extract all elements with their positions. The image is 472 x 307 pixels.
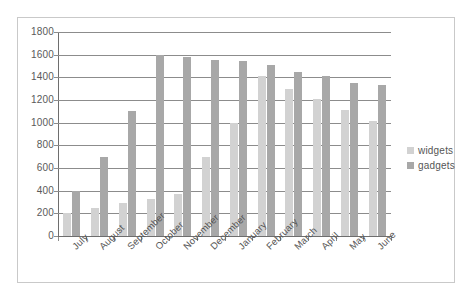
bar-group xyxy=(308,32,336,236)
bar-gadgets[interactable] xyxy=(378,85,386,236)
y-tick-label: 1800 xyxy=(31,27,54,37)
bar-widgets[interactable] xyxy=(285,89,293,236)
y-tick-label: 800 xyxy=(37,140,54,150)
bar-gadgets[interactable] xyxy=(350,83,358,236)
bar-gadgets[interactable] xyxy=(294,72,302,236)
bar-group xyxy=(141,32,169,236)
y-tick-mark xyxy=(54,77,58,78)
bar-gadgets[interactable] xyxy=(267,65,275,236)
y-tick-mark xyxy=(54,213,58,214)
bar-group xyxy=(363,32,391,236)
y-tick-mark xyxy=(54,191,58,192)
bar-group xyxy=(197,32,225,236)
y-tick-mark xyxy=(54,236,58,237)
y-tick-mark xyxy=(54,55,58,56)
bar-group xyxy=(225,32,253,236)
chart-legend: widgetsgadgets xyxy=(407,143,472,173)
bar-gadgets[interactable] xyxy=(211,60,219,236)
y-tick-label: 400 xyxy=(37,186,54,196)
x-tick-mark xyxy=(58,237,59,241)
chart-frame: 180016001400120010008006004002000 JulyAu… xyxy=(17,17,455,283)
legend-item[interactable]: gadgets xyxy=(407,158,472,173)
bar-widgets[interactable] xyxy=(341,110,349,236)
bar-widgets[interactable] xyxy=(258,76,266,236)
legend-swatch-icon xyxy=(407,162,414,169)
legend-swatch-icon xyxy=(407,147,414,154)
y-tick-label: 600 xyxy=(37,163,54,173)
bar-gadgets[interactable] xyxy=(156,55,164,236)
y-tick-label: 1600 xyxy=(31,50,54,60)
legend-label: widgets xyxy=(418,145,453,156)
y-tick-mark xyxy=(54,32,58,33)
bar-widgets[interactable] xyxy=(63,213,71,236)
bar-group xyxy=(58,32,86,236)
legend-item[interactable]: widgets xyxy=(407,143,472,158)
legend-label: gadgets xyxy=(418,160,455,171)
bar-group xyxy=(169,32,197,236)
bar-group xyxy=(336,32,364,236)
bar-group xyxy=(280,32,308,236)
bar-gadgets[interactable] xyxy=(128,111,136,236)
y-tick-mark xyxy=(54,100,58,101)
bar-gadgets[interactable] xyxy=(100,157,108,236)
bar-gadgets[interactable] xyxy=(183,57,191,236)
bar-group xyxy=(114,32,142,236)
bar-widgets[interactable] xyxy=(91,208,99,236)
y-tick-mark xyxy=(54,145,58,146)
y-tick-label: 1200 xyxy=(31,95,54,105)
bar-group xyxy=(252,32,280,236)
bar-gadgets[interactable] xyxy=(72,191,80,236)
y-tick-label: 1000 xyxy=(31,118,54,128)
bar-widgets[interactable] xyxy=(313,99,321,236)
plot-area xyxy=(58,32,391,236)
bar-widgets[interactable] xyxy=(369,121,377,236)
y-tick-mark xyxy=(54,168,58,169)
bar-gadgets[interactable] xyxy=(322,76,330,236)
bar-group xyxy=(86,32,114,236)
y-axis-labels: 180016001400120010008006004002000 xyxy=(18,32,54,236)
y-tick-label: 1400 xyxy=(31,72,54,82)
y-tick-label: 200 xyxy=(37,208,54,218)
bar-gadgets[interactable] xyxy=(239,61,247,236)
y-tick-mark xyxy=(54,123,58,124)
